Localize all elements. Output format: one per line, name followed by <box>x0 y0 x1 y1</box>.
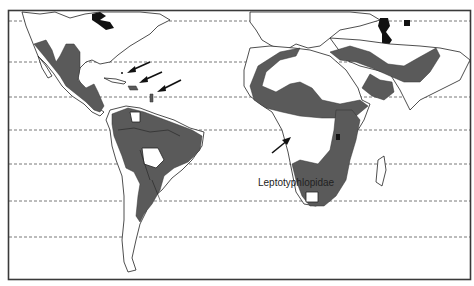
range-gap-venezuela <box>130 112 140 122</box>
range-hispaniola <box>128 86 138 90</box>
aral-sea <box>404 20 410 26</box>
arrowhead-icon <box>127 66 136 73</box>
bahamas <box>121 72 123 74</box>
arrowhead-icon <box>157 85 166 92</box>
distribution-map: Leptotyphlopidae <box>0 0 474 286</box>
arrowhead-icon <box>139 76 148 83</box>
caspian-sea <box>378 18 392 46</box>
range-arabia <box>362 74 394 100</box>
madagascar <box>376 156 386 186</box>
cuba <box>104 78 126 84</box>
range-lesser-antilles <box>150 94 153 102</box>
lake-victoria <box>336 134 340 140</box>
range-gap-southern-africa <box>306 192 318 202</box>
map-title: Leptotyphlopidae <box>258 177 335 188</box>
